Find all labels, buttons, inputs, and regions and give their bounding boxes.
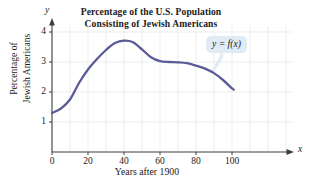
y-tick-label-1: 1 bbox=[32, 116, 46, 126]
x-tick-label-40: 40 bbox=[112, 156, 136, 166]
x-tick-label-60: 60 bbox=[148, 156, 172, 166]
y-tick-label-3: 3 bbox=[32, 56, 46, 66]
chart-figure: Percentage of the U.S. Population Consis… bbox=[0, 0, 312, 184]
x-axis-letter: x bbox=[298, 144, 302, 154]
y-axis bbox=[49, 18, 55, 152]
x-tick-label-80: 80 bbox=[184, 156, 208, 166]
y-tick-label-2: 2 bbox=[32, 86, 46, 96]
grid-vertical bbox=[70, 26, 286, 152]
x-tick-label-20: 20 bbox=[76, 156, 100, 166]
x-tick-label-0: 0 bbox=[40, 156, 64, 166]
y-axis-title: Percentage of Jewish Americans bbox=[8, 11, 33, 127]
y-axis-title-line-2: Jewish Americans bbox=[20, 11, 33, 127]
x-tick-label-100: 100 bbox=[220, 156, 244, 166]
y-axis-letter: y bbox=[45, 5, 49, 15]
y-axis-title-line-1: Percentage of bbox=[8, 11, 21, 127]
x-axis-title: Years after 1900 bbox=[52, 166, 242, 177]
y-tick-label-4: 4 bbox=[32, 26, 46, 36]
function-callout-label: y = f(x) bbox=[206, 36, 247, 53]
